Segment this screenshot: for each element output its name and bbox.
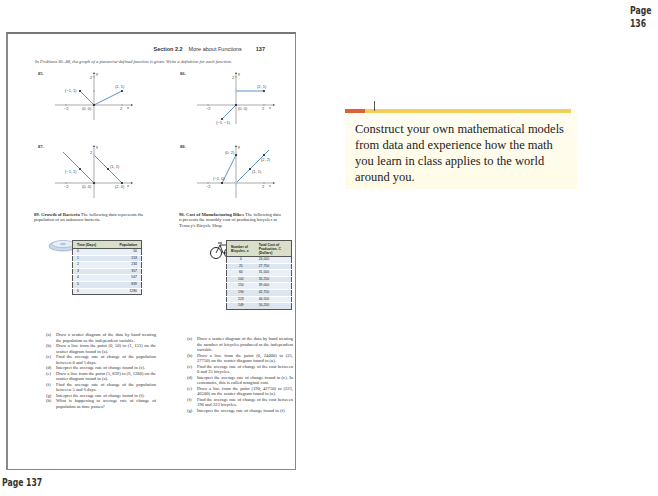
- page-label-136: Page 136: [630, 4, 652, 30]
- svg-text:−2: −2: [64, 184, 69, 189]
- list-item: (e)Draw a line from the point (5, 839) t…: [46, 371, 156, 382]
- svg-text:(0, 0): (0, 0): [82, 106, 92, 111]
- callout-accent: [345, 109, 365, 113]
- list-item: (b)Draw a line from the point (0, 50) to…: [46, 343, 156, 354]
- list-item: (e)Draw a line from the point (190, 4275…: [187, 386, 293, 397]
- svg-text:(2, 1): (2, 1): [257, 84, 267, 89]
- running-header: Section 2.2More about Functions137: [154, 46, 265, 52]
- table-row: 15039,000: [227, 283, 292, 290]
- graph-87: y2x −2 (−1, 1)(0, 0) (1, 1)(2, 0): [53, 145, 133, 200]
- svg-text:y: y: [238, 71, 240, 76]
- svg-text:(2, 1): (2, 1): [115, 84, 125, 89]
- svg-text:y: y: [238, 144, 240, 149]
- table-row: 5839: [73, 281, 142, 288]
- svg-text:(−1, −1): (−1, −1): [216, 120, 231, 125]
- svg-text:2: 2: [90, 150, 93, 155]
- graph-88: yx −22 (0, 2)(−1, 0) (1, 1)(2, 2): [195, 145, 275, 200]
- svg-text:−2: −2: [64, 106, 69, 111]
- svg-text:−2: −2: [206, 106, 211, 111]
- col-total-cost: Total Cost of Production, C (Dollars): [255, 241, 292, 257]
- callout-text: Construct your own mathematical models f…: [355, 121, 570, 185]
- svg-text:(1, 1): (1, 1): [110, 164, 120, 169]
- page-number: 137: [256, 46, 265, 52]
- svg-text:(−1, 1): (−1, 1): [65, 169, 77, 174]
- graph-85: y2x −22 (−1, 1)(0, 0)(2, 1): [53, 72, 133, 122]
- textbook-page: Section 2.2More about Functions137 In Pr…: [6, 32, 296, 470]
- list-item: (f)Find the average rate of change of th…: [187, 397, 293, 408]
- problem-number-85: 85.: [38, 71, 44, 76]
- problem-number-87: 87.: [38, 144, 44, 149]
- svg-text:x: x: [269, 183, 271, 188]
- problems-intro: In Problems 85–88, the graph of a piecew…: [35, 59, 232, 64]
- bikes-table: Number of Bicycles, x Total Cost of Prod…: [226, 240, 292, 310]
- problem-90-questions: (a)Draw a scatter diagram of the data by…: [187, 336, 293, 413]
- table-row: 24950,250: [227, 303, 292, 310]
- list-item: (c)Find the average rate of change of th…: [46, 354, 156, 365]
- svg-text:(1, 1): (1, 1): [252, 169, 262, 174]
- problem-90: 90. Cost of Manufacturing Bikes The foll…: [179, 212, 291, 228]
- svg-text:(2, 0): (2, 0): [115, 184, 125, 189]
- svg-text:2: 2: [232, 75, 235, 80]
- callout-bar: [345, 109, 571, 113]
- callout-tick: [374, 101, 375, 111]
- section-title: More about Functions: [189, 46, 242, 52]
- table-row: 2527,750: [227, 263, 292, 270]
- table-row: 6031,500: [227, 270, 292, 277]
- problem-89: 89. Growth of Bacteria The following dat…: [34, 212, 156, 223]
- svg-text:2: 2: [262, 184, 265, 189]
- svg-text:(−1, 0): (−1, 0): [213, 176, 225, 181]
- table-row: 024,000: [227, 257, 292, 264]
- svg-text:(0, 0): (0, 0): [238, 106, 248, 111]
- table-row: 19042,750: [227, 289, 292, 296]
- table-row: 22346,500: [227, 296, 292, 303]
- section-number: Section 2.2: [154, 46, 183, 52]
- problem-89-questions: (a)Draw a scatter diagram of the data by…: [46, 332, 156, 409]
- svg-text:x: x: [127, 183, 129, 188]
- table-row: 2234: [73, 262, 142, 269]
- svg-text:−2: −2: [206, 184, 211, 189]
- bacteria-table: Time (Days) Population 050 1153 2234 335…: [72, 240, 142, 295]
- list-item: (f)Find the average rate of change of th…: [46, 382, 156, 393]
- svg-text:(0, 0): (0, 0): [82, 184, 92, 189]
- list-item: (h)What is happening to average rate of …: [46, 398, 156, 409]
- problem-90-title: Cost of Manufacturing Bikes: [186, 212, 244, 217]
- svg-text:(0, 2): (0, 2): [225, 150, 235, 155]
- table-row: 10235,250: [227, 276, 292, 283]
- table-row: 1153: [73, 255, 142, 262]
- problem-89-title: Growth of Bacteria: [41, 212, 80, 217]
- svg-text:y: y: [96, 144, 98, 149]
- callout-box: Construct your own mathematical models f…: [345, 109, 577, 189]
- svg-text:(−1, 1): (−1, 1): [65, 88, 77, 93]
- list-item: (d)Interpret the average rate of change …: [187, 375, 293, 386]
- svg-text:(2, 2): (2, 2): [261, 157, 271, 162]
- problem-number-86: 86.: [180, 71, 186, 76]
- graph-86: y2x −22 (2, 1)(0, 0)(−1, −1): [195, 72, 275, 127]
- svg-text:y: y: [96, 71, 98, 76]
- svg-text:x: x: [269, 105, 271, 110]
- list-item: (g)Interpret the average rate of change …: [187, 408, 293, 414]
- page-label-137: Page 137: [2, 476, 42, 489]
- col-population: Population: [108, 241, 141, 249]
- svg-text:x: x: [127, 105, 129, 110]
- col-time: Time (Days): [73, 241, 109, 249]
- table-row: 4547: [73, 275, 142, 282]
- svg-text:2: 2: [262, 106, 265, 111]
- col-bicycles: Number of Bicycles, x: [227, 241, 255, 257]
- table-row: 61280: [73, 288, 142, 295]
- list-item: (a)Draw a scatter diagram of the data by…: [46, 332, 156, 343]
- svg-text:2: 2: [90, 75, 93, 80]
- list-item: (c)Find the average rate of change of th…: [187, 364, 293, 375]
- table-row: 3357: [73, 268, 142, 275]
- list-item: (b)Draw a line from the point (0, 24000)…: [187, 353, 293, 364]
- table-row: 050: [73, 249, 142, 256]
- list-item: (a)Draw a scatter diagram of the data by…: [187, 336, 293, 353]
- problem-number-88: 88.: [180, 144, 186, 149]
- svg-text:2: 2: [120, 106, 123, 111]
